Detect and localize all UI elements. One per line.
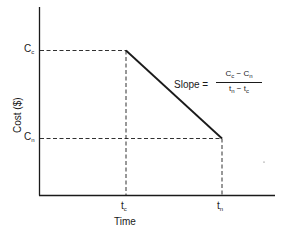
cost-time-diagram [0,0,282,234]
slope-fraction: Cc − Cn tn − tc [216,69,262,96]
y-tick-cc: Cc [24,44,34,57]
x-axis-label: Time [114,217,136,227]
cost-slope-line [126,51,222,139]
y-axis-label: Cost ($) [12,97,23,133]
x-tick-tc: tc [121,201,127,214]
slope-numerator: Cc − Cn [216,69,262,81]
slope-denominator: tn − tc [216,84,262,96]
slope-label: Slope = [174,80,208,90]
y-tick-cn: Cn [24,132,35,145]
x-tick-tn: tn [217,201,223,214]
